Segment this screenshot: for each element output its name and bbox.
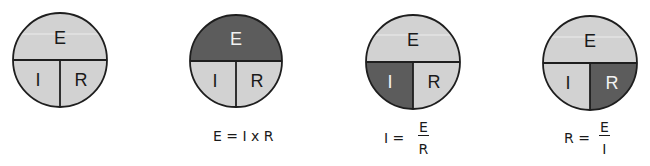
- formula-r: R =: [564, 131, 590, 145]
- label-i: I: [35, 70, 40, 90]
- label-r: R: [428, 72, 441, 92]
- label-e: E: [230, 29, 242, 49]
- formula-r-numerator: E: [599, 120, 610, 136]
- label-e: E: [407, 30, 419, 50]
- formula-r-denominator: I: [602, 136, 606, 156]
- ohms-circle-solve-r: E I R: [543, 16, 637, 110]
- label-e: E: [54, 28, 66, 48]
- formula-r-fraction: E I: [599, 120, 610, 156]
- label-i: I: [565, 73, 570, 93]
- formula-i: I =: [384, 131, 404, 145]
- label-i: I: [212, 71, 217, 91]
- formula-r-lhs: R =: [564, 130, 590, 146]
- label-r: R: [251, 71, 264, 91]
- ohms-circle-solve-i: E I R: [366, 15, 460, 109]
- ohms-circle-solve-e: E I R: [190, 15, 282, 107]
- formula-i-numerator: E: [418, 120, 429, 136]
- formula-e: E = I x R: [213, 129, 274, 143]
- label-r: R: [75, 70, 88, 90]
- label-i: I: [387, 72, 392, 92]
- formula-i-denominator: R: [419, 136, 429, 156]
- formula-i-lhs: I =: [384, 130, 404, 146]
- label-r: R: [606, 73, 619, 93]
- ohms-circle-base: E I R: [13, 13, 107, 107]
- ohms-law-circles: E I R E I R E I R E I R: [0, 0, 650, 166]
- label-e: E: [584, 31, 596, 51]
- formula-i-fraction: E R: [418, 120, 429, 156]
